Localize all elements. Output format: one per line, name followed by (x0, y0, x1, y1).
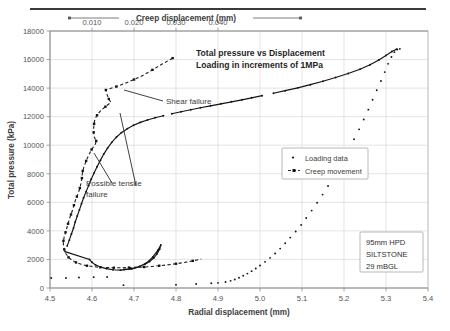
creep-displacement-chart: 4.54.64.74.84.95.05.15.25.35.40200040006… (0, 0, 450, 331)
x-tick-label: 4.5 (45, 294, 56, 303)
x-tick-label: 4.7 (129, 294, 140, 303)
x-tick-label: 4.8 (171, 294, 182, 303)
y-tick-label: 14000 (23, 84, 44, 93)
legend-label-creep-movement: Creep movement (305, 167, 362, 176)
x-tick-label: 5.1 (297, 294, 308, 303)
top-tick-label: 0.010 (82, 18, 101, 27)
y-tick-label: 4000 (27, 227, 44, 236)
chart-legend[interactable]: Loading data Creep movement (282, 148, 368, 179)
top-divider-rule (30, 8, 426, 10)
x-tick-label: 5.0 (255, 294, 266, 303)
annotation-tensile-failure-line2: failure (86, 190, 108, 199)
y-tick-label: 6000 (27, 198, 44, 207)
sample-info-box: 95mm HPD SILTSTONE 29 mBGL (360, 232, 423, 272)
annotation-shear-failure-text: Shear failure (166, 97, 212, 106)
chart-figure: 4.54.64.74.84.95.05.15.25.35.40200040006… (0, 0, 450, 331)
y-tick-label: 10000 (23, 141, 44, 150)
info-line-depth: 29 mBGL (366, 262, 398, 271)
x-tick-label: 5.2 (339, 294, 350, 303)
y-axis-label: Total pressure (kPa) (7, 121, 16, 199)
annotation-tensile-failure-line1: Possible tensile (86, 179, 142, 188)
chart-title: Total pressure vs Displacement (196, 48, 325, 58)
x-tick-label: 5.4 (423, 294, 434, 303)
y-tick-label: 18000 (23, 27, 44, 36)
top-axis-label: Creep displacement (mm) (136, 14, 236, 23)
chart-subtitle: Loading in increments of 1MPa (196, 60, 323, 70)
x-tick-label: 5.3 (381, 294, 392, 303)
top-axis-arrow-right (253, 17, 302, 20)
info-line-material: SILTSTONE (366, 250, 408, 259)
legend-label-loading-data: Loading data (305, 154, 349, 163)
x-tick-label: 4.6 (87, 294, 98, 303)
y-tick-label: 0 (40, 284, 44, 293)
x-tick-label: 4.9 (213, 294, 224, 303)
y-tick-label: 12000 (23, 112, 44, 121)
x-axis-label: Radial displacement (mm) (188, 308, 290, 317)
annotation-shear-failure: Shear failure (124, 90, 212, 106)
y-tick-label: 2000 (27, 255, 44, 264)
y-tick-label: 16000 (23, 55, 44, 64)
info-line-probe: 95mm HPD (366, 238, 406, 247)
series-creep-movement (62, 57, 201, 269)
y-tick-label: 8000 (27, 170, 44, 179)
